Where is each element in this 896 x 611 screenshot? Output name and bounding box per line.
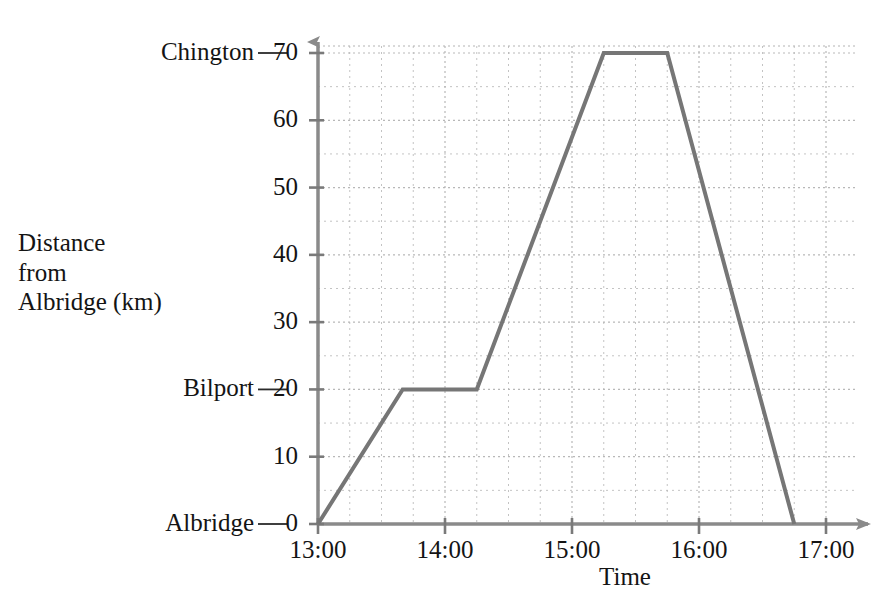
x-axis-title: Time: [545, 562, 705, 592]
y-tick-label: 70: [252, 37, 298, 67]
journey-line: [318, 53, 794, 524]
axis-lines: [318, 42, 868, 524]
y-tick-label: 50: [252, 172, 298, 202]
distance-time-chart: 010203040506070 13:0014:0015:0016:0017:0…: [0, 0, 896, 611]
place-label: Chington: [34, 37, 254, 67]
tick-marks: [309, 53, 826, 534]
y-axis-title-line: Albridge (km): [18, 287, 258, 317]
place-label: Albridge: [34, 508, 254, 538]
y-axis-title-line: from: [18, 258, 258, 288]
place-label: Bilport: [34, 373, 254, 403]
y-tick-label: 20: [252, 373, 298, 403]
y-tick-label: 40: [252, 239, 298, 269]
y-tick-label: 30: [252, 306, 298, 336]
x-tick-label: 16:00: [644, 535, 754, 565]
x-tick-label: 14:00: [390, 535, 500, 565]
y-tick-label: 60: [252, 104, 298, 134]
journey-polyline: [318, 53, 794, 524]
x-tick-label: 17:00: [771, 535, 881, 565]
y-axis-title: DistancefromAlbridge (km): [18, 228, 258, 317]
y-tick-label: 0: [252, 508, 298, 538]
grid-lines: [318, 46, 858, 524]
y-tick-label: 10: [252, 441, 298, 471]
x-tick-label: 13:00: [263, 535, 373, 565]
y-axis-title-line: Distance: [18, 228, 258, 258]
x-tick-label: 15:00: [517, 535, 627, 565]
